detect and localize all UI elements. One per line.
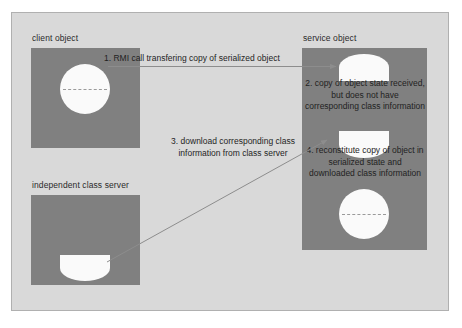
class-information-halfdisc-icon [60, 255, 110, 281]
service-object-label: service object [303, 33, 356, 43]
step-3-text: 3. download corresponding class informat… [160, 136, 306, 159]
received-object-state-dome-icon [339, 54, 389, 81]
reconstituted-object-circle-icon [339, 189, 389, 239]
circle-equator-dash [342, 214, 386, 215]
serialized-object-circle-icon [60, 64, 110, 114]
diagram-canvas: client object service object independent… [0, 0, 462, 328]
independent-class-server-label: independent class server [32, 180, 129, 190]
independent-class-server-box [31, 195, 140, 285]
client-object-label: client object [32, 33, 78, 43]
step-1-text: 1. RMI call transfering copy of serializ… [104, 53, 320, 65]
circle-equator-dash [63, 89, 107, 90]
step-4-text: 4. reconstitute copy of object in serial… [305, 145, 425, 180]
step-2-text: 2. copy of object state received, but do… [305, 78, 425, 113]
